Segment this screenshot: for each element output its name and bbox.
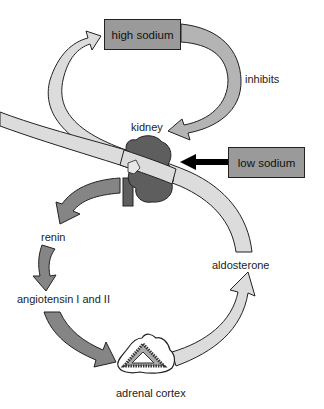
sodium-regulation-diagram: high sodium low sodium inhibits kidney r… <box>0 0 324 409</box>
adrenal-cortex-icon <box>118 334 175 373</box>
high-sodium-label: high sodium <box>111 29 173 41</box>
kidney-to-renin-arrow <box>56 178 120 224</box>
kidney-label: kidney <box>131 122 163 133</box>
renin-label: renin <box>41 232 65 243</box>
aldosterone-label: aldosterone <box>212 260 270 271</box>
angiotensin-label: angiotensin I and II <box>17 294 110 305</box>
low-sodium-arrow <box>180 154 228 170</box>
adrenal-to-aldosterone-arrow <box>172 272 255 366</box>
high-sodium-box: high sodium <box>104 19 181 50</box>
diagram-canvas <box>0 0 324 409</box>
angiotensin-to-adrenal-arrow <box>44 312 116 367</box>
low-sodium-box: low sodium <box>228 147 305 178</box>
inhibits-label: inhibits <box>245 74 279 85</box>
adrenal-cortex-label: adrenal cortex <box>116 388 186 399</box>
low-sodium-label: low sodium <box>238 157 296 169</box>
kidney-icon <box>120 136 176 206</box>
renin-to-angiotensin-arrow <box>33 245 56 291</box>
